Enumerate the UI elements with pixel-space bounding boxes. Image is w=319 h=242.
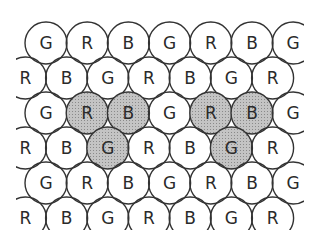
cell-label: G: [225, 68, 238, 88]
mosaic-cell-g: G: [87, 197, 129, 239]
cell-label: G: [225, 208, 238, 228]
cell-label: G: [101, 138, 114, 158]
cell-label: G: [163, 33, 176, 53]
cell-label: B: [61, 68, 73, 88]
cell-label: B: [184, 138, 196, 158]
cell-label: G: [287, 33, 300, 53]
cell-label: R: [267, 68, 279, 88]
cell-label: B: [61, 208, 73, 228]
cell-label: R: [205, 173, 217, 193]
cell-label: G: [39, 33, 52, 53]
cell-label: R: [81, 173, 93, 193]
cell-label: G: [101, 208, 114, 228]
cell-label: G: [39, 103, 52, 123]
cell-label: B: [123, 33, 135, 53]
cell-label: B: [123, 103, 135, 123]
cell-label: R: [143, 68, 155, 88]
mosaic-cell-r: R: [128, 197, 170, 239]
cell-label: G: [163, 103, 176, 123]
cell-label: R: [205, 33, 217, 53]
cell-label: B: [123, 173, 135, 193]
cell-label: G: [287, 173, 300, 193]
mosaic-cell-r: R: [4, 197, 46, 239]
cell-label: G: [225, 138, 238, 158]
mosaic-cell-b: B: [169, 197, 211, 239]
cell-label: R: [19, 208, 31, 228]
cell-label: G: [101, 68, 114, 88]
mosaic-cell-r: R: [252, 197, 294, 239]
cell-label: B: [184, 208, 196, 228]
mosaic-cell-g: G: [210, 197, 252, 239]
cell-label: B: [184, 68, 196, 88]
cell-label: R: [205, 103, 217, 123]
mosaic-cell-b: B: [46, 197, 88, 239]
cell-label: R: [81, 103, 93, 123]
cell-label: R: [267, 208, 279, 228]
cell-label: G: [287, 103, 300, 123]
cell-label: B: [246, 103, 258, 123]
cell-label: R: [19, 138, 31, 158]
cell-label: G: [39, 173, 52, 193]
cell-label: B: [246, 173, 258, 193]
cell-label: R: [267, 138, 279, 158]
hex-color-mosaic: GRBGRBGRBGRBGRGRBGRBGRBGRBGRGRBGRBGRBGRB…: [0, 0, 319, 242]
cell-label: B: [246, 33, 258, 53]
cell-label: R: [19, 68, 31, 88]
cell-label: R: [81, 33, 93, 53]
cell-label: B: [61, 138, 73, 158]
cell-label: G: [163, 173, 176, 193]
cell-label: R: [143, 138, 155, 158]
cell-label: R: [143, 208, 155, 228]
